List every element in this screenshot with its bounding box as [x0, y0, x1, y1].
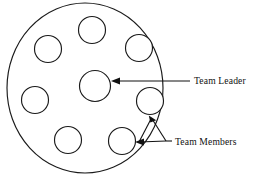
member-circle-upper-right: [126, 35, 153, 62]
team-diagram: Team Leader Team Members: [0, 0, 262, 181]
team-leader-label: Team Leader: [194, 75, 246, 86]
leader-callout-arrowhead: [111, 78, 120, 85]
member-circle-left: [22, 87, 49, 114]
member-circle-top: [79, 17, 106, 44]
leader-circle: [80, 71, 111, 102]
member-circle-bottom-right: [109, 128, 136, 155]
member-circle-bottom-left: [55, 127, 82, 154]
team-diagram-canvas: Team Leader Team Members: [0, 0, 262, 181]
member-circle-upper-left: [35, 36, 62, 63]
members-callout-branch-cross: [139, 118, 152, 142]
members-arrowhead-lower: [135, 139, 144, 146]
team-members-label: Team Members: [175, 136, 237, 147]
member-circle-right: [137, 88, 164, 115]
